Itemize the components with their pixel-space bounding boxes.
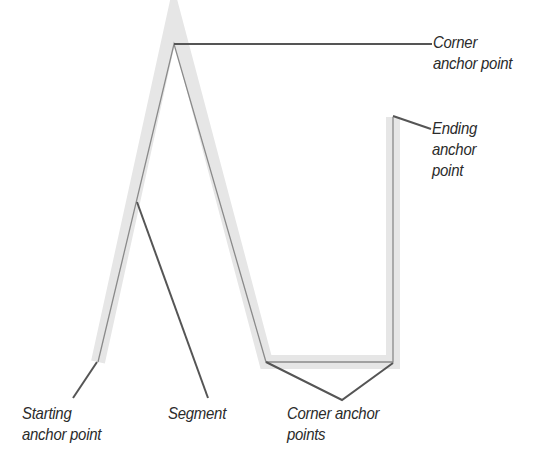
callout-segment [137,202,208,398]
label-ending-anchor-point: Ending anchor point [432,118,477,181]
path-line [98,44,393,362]
path-halo [98,15,393,362]
callout-starting [73,362,97,398]
label-segment: Segment [168,403,226,424]
label-starting-anchor-point: Starting anchor point [22,403,101,445]
label-corner-anchor-points: Corner anchor points [287,403,379,445]
label-corner-anchor-point: Corner anchor point [433,32,512,74]
